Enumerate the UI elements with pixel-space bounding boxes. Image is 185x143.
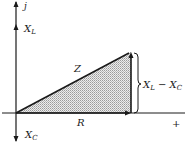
j-arrow-icon [14,1,19,7]
z-label: Z [73,63,82,74]
r-label: R [76,117,85,128]
xc-arrow-icon [14,136,19,142]
reactance-difference-label: XL − XC [142,79,183,92]
bracket [134,53,141,113]
xl-arrow-icon [14,24,19,30]
xl-label: XL [23,23,36,36]
plus-label: + [172,118,180,129]
j-label: j [22,1,27,11]
impedance-diagram: j XL Z R XC XL − XC + [0,0,185,143]
xc-label: XC [24,129,38,142]
